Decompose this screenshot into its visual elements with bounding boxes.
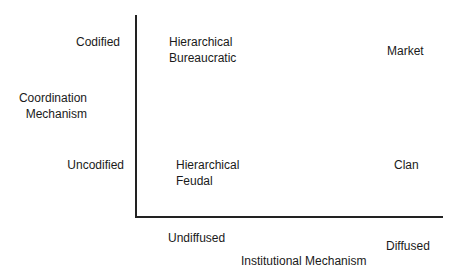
quadrant-market: Market (387, 43, 424, 59)
x-tick-undiffused: Undiffused (168, 230, 225, 246)
y-tick-codified: Codified (76, 34, 120, 50)
x-axis-title: Institutional Mechanism (241, 253, 366, 269)
quadrant-hierarchical-bureaucratic: Hierarchical Bureaucratic (169, 34, 236, 66)
quadrant-label-line2: Feudal (176, 173, 239, 189)
quadrant-label-line2: Bureaucratic (169, 50, 236, 66)
y-axis-title-line2: Mechanism (19, 106, 87, 122)
quadrant-label-line1: Hierarchical (176, 157, 239, 173)
quadrant-label-line1: Hierarchical (169, 34, 236, 50)
y-tick-uncodified: Uncodified (67, 157, 124, 173)
y-axis-line (135, 15, 137, 218)
y-axis-title: Coordination Mechanism (19, 90, 87, 122)
quadrant-hierarchical-feudal: Hierarchical Feudal (176, 157, 239, 189)
y-axis-title-line1: Coordination (19, 90, 87, 106)
quadrant-clan: Clan (394, 157, 419, 173)
x-tick-diffused: Diffused (386, 238, 430, 254)
x-axis-line (135, 216, 443, 218)
